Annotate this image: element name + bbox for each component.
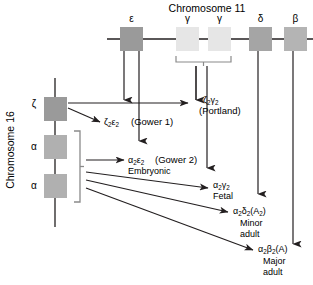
fetal-chains: α2γ2	[213, 180, 230, 191]
gower1-chains: ζ2ε2	[104, 117, 120, 128]
gower2-chains: α2ε2	[128, 155, 145, 166]
gower2-paren: (Gower 2)	[155, 154, 197, 165]
gene-box-gamma-g	[176, 27, 199, 51]
gene-box-gamma-a	[208, 27, 231, 51]
hemoglobin-portland: ζ2γ2 (Portland)	[199, 95, 241, 116]
gene-label-alpha-2: α	[31, 141, 37, 152]
descent-lines	[124, 51, 293, 244]
gamma-gene-bracket	[176, 56, 231, 62]
minor-adult-stage: Minor	[240, 218, 263, 228]
gene-box-alpha-2	[44, 135, 67, 159]
gene-label-beta: β	[293, 13, 299, 24]
minor-adult-stage2: adult	[240, 229, 260, 239]
hemoglobin-gower2: α2ε2 (Gower 2) Embryonic	[128, 154, 197, 176]
gene-box-beta	[284, 27, 307, 51]
diagram-canvas: Chromosome 11 ε γ γ δ β Chromosome 16	[0, 0, 313, 285]
portland-paren: (Portland)	[199, 105, 241, 116]
gene-label-gamma-g: γ	[185, 13, 190, 24]
chromosome-11-group: Chromosome 11 ε γ γ δ β	[107, 2, 313, 51]
major-adult-stage2: adult	[263, 267, 283, 277]
hemoglobin-minor-adult: α2δ2(A2) Minor adult	[233, 206, 266, 239]
hemoglobin-gower1: ζ2ε2 (Gower 1)	[104, 116, 173, 128]
fetal-stage: Fetal	[213, 191, 233, 201]
gene-label-epsilon: ε	[129, 13, 134, 24]
chromosome-11-title: Chromosome 11	[169, 2, 246, 14]
gene-box-zeta	[44, 97, 67, 121]
gower2-stage: Embryonic	[128, 166, 171, 176]
hemoglobin-major-adult: α2β2(A) Major adult	[258, 244, 287, 277]
minor-adult-chains: α2δ2(A2)	[233, 206, 266, 217]
hemoglobin-fetal: α2γ2 Fetal	[213, 180, 233, 201]
hemoglobin-switching-diagram: Chromosome 11 ε γ γ δ β Chromosome 16	[0, 0, 313, 285]
chromosome-16-title: Chromosome 16	[4, 111, 16, 189]
gene-box-alpha-1	[44, 174, 67, 198]
gene-label-alpha-1: α	[31, 180, 37, 191]
gower1-paren: (Gower 1)	[131, 116, 173, 127]
gamma-gene-bracket-group	[176, 56, 231, 66]
alpha-gene-bracket	[74, 131, 80, 202]
gene-label-delta: δ	[258, 13, 264, 24]
gene-label-zeta: ζ	[32, 98, 37, 110]
gene-box-delta	[249, 27, 272, 51]
major-adult-chains: α2β2(A)	[258, 244, 287, 255]
arrow-zeta-to-gower1	[68, 108, 100, 122]
major-adult-stage: Major	[263, 256, 286, 266]
gene-label-gamma-a: γ	[217, 13, 222, 24]
chromosome-16-group: Chromosome 16 ζ α α	[4, 78, 84, 227]
gene-box-epsilon	[120, 27, 143, 51]
